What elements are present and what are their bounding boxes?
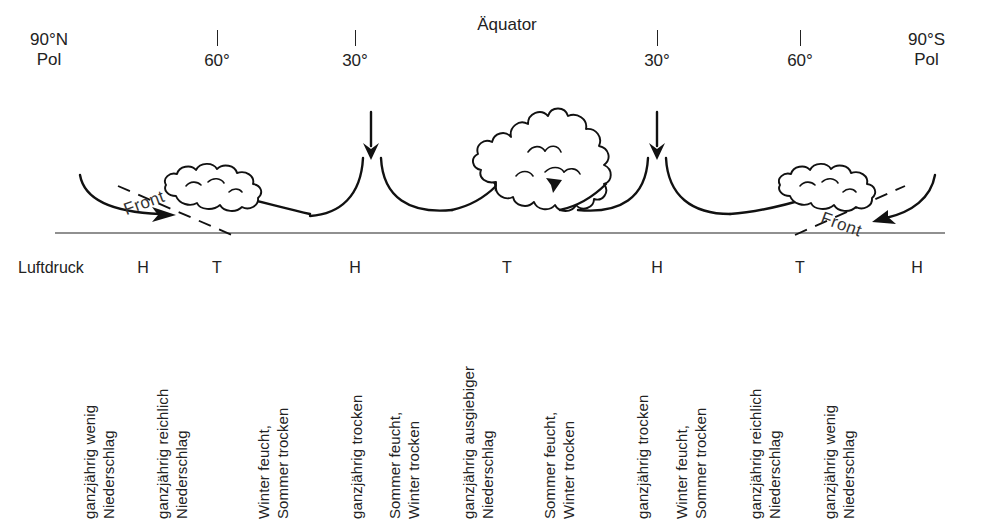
precipitation-regime-label: ganzjährig trocken <box>633 395 652 519</box>
pressure-belt-subtropical-high-south: H <box>637 259 677 277</box>
pressure-belt-subpolar-low-north: T <box>197 259 237 277</box>
circulation-artwork <box>0 0 992 250</box>
westerly-branch-right <box>666 158 730 214</box>
precipitation-regime-label: ganzjährig wenig Niederschlag <box>820 405 858 519</box>
pressure-belt-subtropical-high-north: H <box>335 259 375 277</box>
precipitation-regime-label: Winter feucht, Sommer trocken <box>672 408 710 519</box>
westerly-branch-left <box>310 158 363 216</box>
trade-wind-uplift-left <box>452 186 496 210</box>
pressure-belt-polar-high-south: H <box>897 259 937 277</box>
precipitation-regime-label: ganzjährig ausgiebiger Niederschlag <box>459 366 497 519</box>
precipitation-regime-label: Winter feucht, Sommer trocken <box>254 408 292 519</box>
precipitation-regime-label: ganzjährig reichlich Niederschlag <box>153 389 191 519</box>
pressure-belt-subpolar-low-south: T <box>780 259 820 277</box>
precipitation-regime-label: ganzjährig reichlich Niederschlag <box>746 389 784 519</box>
cumulonimbus-cloud-center <box>473 109 611 212</box>
trade-wind-flow-left <box>381 158 452 211</box>
precipitation-regime-label: ganzjährig trocken <box>347 395 366 519</box>
pressure-row-caption: Luftdruck <box>18 259 84 277</box>
pressure-belt-equatorial-low: T <box>487 259 527 277</box>
polar-easterly-flow-right <box>886 175 935 218</box>
precipitation-regime-label: Sommer feucht, Winter trocken <box>385 412 423 519</box>
frontal-cloud-right <box>779 164 875 211</box>
precipitation-regime-label: ganzjährig wenig Niederschlag <box>80 405 118 519</box>
frontal-cloud-left <box>165 164 261 211</box>
circulation-diagram: 90°N Pol 90°S Pol Äquator 60° 30° 30° 60… <box>0 0 992 527</box>
precipitation-regime-label: Sommer feucht, Winter trocken <box>540 412 578 519</box>
pressure-belt-polar-high-north: H <box>123 259 163 277</box>
